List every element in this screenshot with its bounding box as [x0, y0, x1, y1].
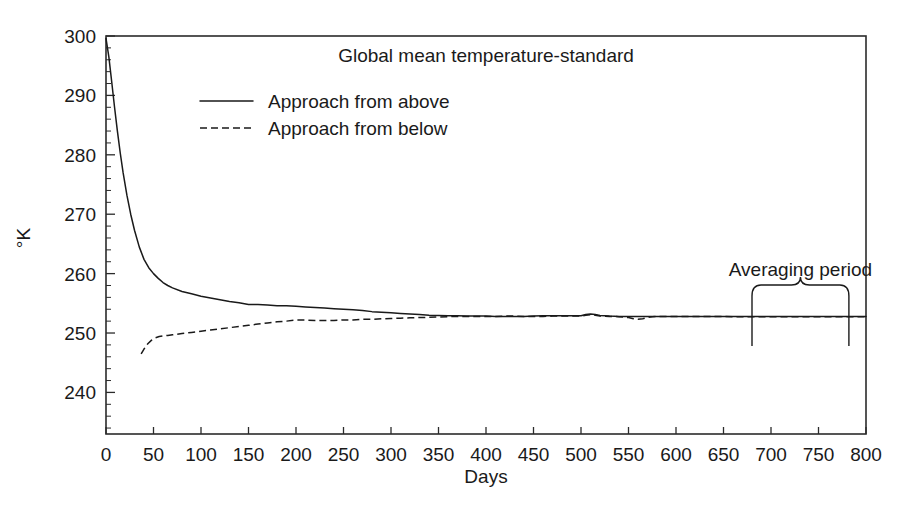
- x-tick-label: 650: [708, 444, 740, 465]
- y-tick-label: 270: [64, 204, 96, 225]
- x-tick-label: 50: [143, 444, 164, 465]
- x-axis-tick-labels: 0501001502002503003504004505005506006507…: [101, 444, 882, 465]
- x-tick-label: 350: [423, 444, 455, 465]
- x-tick-label: 100: [185, 444, 217, 465]
- y-tick-label: 280: [64, 145, 96, 166]
- x-tick-label: 0: [101, 444, 112, 465]
- y-tick-label: 240: [64, 382, 96, 403]
- y-tick-label: 290: [64, 85, 96, 106]
- x-tick-label: 700: [755, 444, 787, 465]
- x-tick-label: 600: [660, 444, 692, 465]
- x-tick-label: 250: [328, 444, 360, 465]
- legend-label-approach-from-above: Approach from above: [268, 91, 450, 112]
- x-tick-label: 150: [233, 444, 265, 465]
- chart-legend: Approach from above Approach from below: [200, 91, 450, 139]
- y-tick-label: 260: [64, 264, 96, 285]
- annotation-label: Averaging period: [729, 259, 872, 280]
- plot-frame: [106, 36, 866, 434]
- figure-container: 0501001502002503003504004505005506006507…: [0, 0, 904, 509]
- x-axis-ticks: [106, 427, 866, 434]
- chart-canvas: 0501001502002503003504004505005506006507…: [0, 0, 904, 509]
- y-axis-tick-labels: 240250260270280290300: [64, 26, 96, 403]
- x-tick-label: 200: [280, 444, 312, 465]
- y-tick-label: 300: [64, 26, 96, 47]
- x-axis-label: Days: [464, 466, 507, 487]
- x-tick-label: 800: [850, 444, 882, 465]
- x-tick-label: 450: [518, 444, 550, 465]
- y-tick-label: 250: [64, 323, 96, 344]
- chart-title: Global mean temperature-standard: [338, 45, 634, 66]
- y-axis-label: °K: [13, 228, 34, 249]
- x-tick-label: 400: [470, 444, 502, 465]
- x-tick-label: 750: [803, 444, 835, 465]
- x-tick-label: 300: [375, 444, 407, 465]
- x-tick-label: 550: [613, 444, 645, 465]
- series-approach-from-below: [141, 315, 866, 354]
- y-axis-ticks: [106, 36, 115, 392]
- legend-label-approach-from-below: Approach from below: [268, 118, 448, 139]
- annotation-averaging-period: Averaging period: [729, 259, 872, 346]
- x-tick-label: 500: [565, 444, 597, 465]
